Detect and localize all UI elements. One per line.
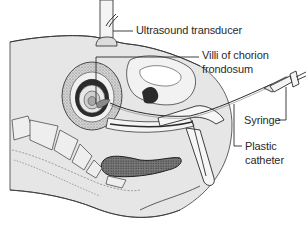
label-villi-of-chorion: Villi of chorion [202,49,269,62]
syringe [264,71,306,92]
label-syringe: Syringe [244,114,281,127]
label-ultrasound-transducer: Ultrasound transducer [136,24,242,37]
label-frondosum: frondosum [202,63,253,76]
diagram-canvas: Ultrasound transducer Villi of chorion f… [0,0,308,227]
ultrasound-transducer-probe [96,0,118,46]
label-plastic: Plastic [245,140,277,153]
label-catheter: catheter [245,154,284,167]
